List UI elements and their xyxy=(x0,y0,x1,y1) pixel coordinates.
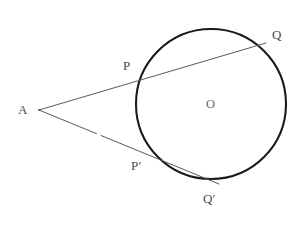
point-label-A: A xyxy=(18,103,28,116)
point-label-Q: Q xyxy=(272,28,282,41)
figure-caption xyxy=(0,210,301,226)
point-label-P-prime: P′ xyxy=(131,159,141,172)
point-A-marker xyxy=(38,109,40,111)
geometry-figure: A P Q P′ Q′ O xyxy=(0,0,301,226)
secant-line-A-Pprime-Qprime xyxy=(39,110,219,184)
secant-line-A-P-Q xyxy=(39,43,266,110)
geometry-canvas xyxy=(0,0,301,226)
point-label-Q-prime: Q′ xyxy=(203,192,216,205)
point-label-O: O xyxy=(206,98,215,111)
point-label-P: P xyxy=(123,59,130,72)
